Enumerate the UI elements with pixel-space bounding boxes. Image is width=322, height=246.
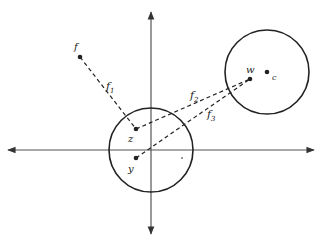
- segment-label-f3: f3: [206, 108, 216, 123]
- segment-f2: [136, 79, 250, 129]
- point-label-c: c: [272, 73, 277, 82]
- labels: f1f2f3fzywc: [73, 41, 277, 174]
- point-label-w: w: [246, 64, 255, 75]
- coordinate-axes: [8, 12, 314, 234]
- diagram-canvas: f1f2f3fzywc: [0, 0, 322, 246]
- point-label-y: y: [127, 163, 134, 174]
- speck-mark: [181, 157, 183, 159]
- segment-label-f2: f2: [189, 89, 199, 104]
- points: [78, 55, 270, 161]
- point-w: [248, 77, 253, 82]
- point-y: [134, 156, 139, 161]
- segment-label-f1: f1: [105, 80, 115, 95]
- point-z: [134, 127, 139, 132]
- segment-f1: [80, 57, 136, 129]
- point-label-z: z: [127, 133, 134, 144]
- point-c: [265, 70, 270, 75]
- point-f: [78, 55, 83, 60]
- point-label-f: f: [73, 41, 80, 52]
